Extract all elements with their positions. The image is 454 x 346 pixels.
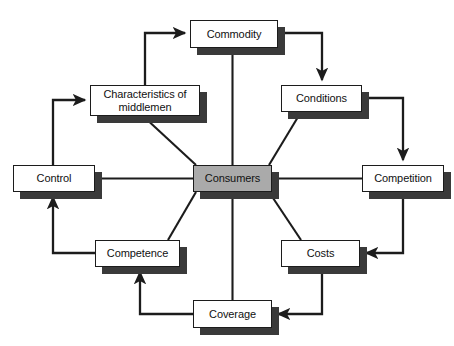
spoke-consumers-costs (269, 192, 301, 240)
node-label-costs: Costs (304, 247, 338, 260)
spoke-consumers-conditions (269, 112, 301, 165)
arrow-control-to-characteristics (53, 100, 85, 165)
spoke-consumers-characteristics (143, 116, 196, 165)
arrow-characteristics-to-commodity (145, 33, 185, 85)
arrow-competition-to-costs (366, 192, 403, 253)
spoke-consumers-competence (168, 192, 196, 240)
node-label-commodity: Commodity (204, 28, 265, 41)
node-label-control: Control (34, 172, 75, 185)
node-commodity[interactable]: Commodity (190, 20, 278, 48)
node-control[interactable]: Control (13, 165, 95, 192)
node-label-conditions: Conditions (293, 92, 350, 105)
node-label-coverage: Coverage (206, 308, 259, 321)
node-competence[interactable]: Competence (95, 240, 180, 267)
node-label-competence: Competence (104, 247, 171, 260)
node-coverage[interactable]: Coverage (193, 300, 272, 328)
node-label-characteristics-of-middlemen: Characteristics of middlemen (100, 88, 189, 114)
diagram-canvas: Commodity Conditions Competition Costs C… (0, 0, 454, 346)
arrow-costs-to-coverage (278, 267, 322, 314)
node-conditions[interactable]: Conditions (281, 85, 362, 112)
node-competition[interactable]: Competition (362, 165, 444, 192)
node-label-competition: Competition (371, 172, 435, 185)
arrow-coverage-to-competence (140, 272, 193, 314)
node-characteristics-of-middlemen[interactable]: Characteristics of middlemen (90, 85, 200, 116)
node-label-consumers: Consumers (202, 172, 263, 185)
node-consumers[interactable]: Consumers (193, 165, 272, 192)
node-costs[interactable]: Costs (281, 240, 360, 267)
arrow-competence-to-control (53, 197, 95, 253)
